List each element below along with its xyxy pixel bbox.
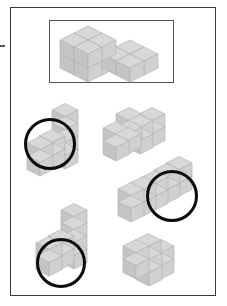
annotation-circle-figure-4 bbox=[36, 238, 86, 288]
reference-figure-frame: L-shaped block, 2 high on left, 1 high o… bbox=[49, 20, 174, 83]
figure-5[interactable]: Solid 2x2x2 cube bbox=[126, 232, 188, 294]
figure-2-shape bbox=[101, 100, 173, 162]
reference-figure bbox=[50, 21, 175, 84]
figure-2[interactable]: Stepped L-block lying horizontally, two … bbox=[101, 100, 173, 162]
worksheet-page: L-shaped block, 2 high on left, 1 high o… bbox=[0, 0, 227, 306]
left-edge-tick-mark bbox=[0, 45, 5, 47]
annotation-circle-figure-1 bbox=[24, 118, 76, 170]
figure-5-shape bbox=[126, 232, 188, 294]
annotation-circle-figure-3 bbox=[146, 170, 198, 222]
